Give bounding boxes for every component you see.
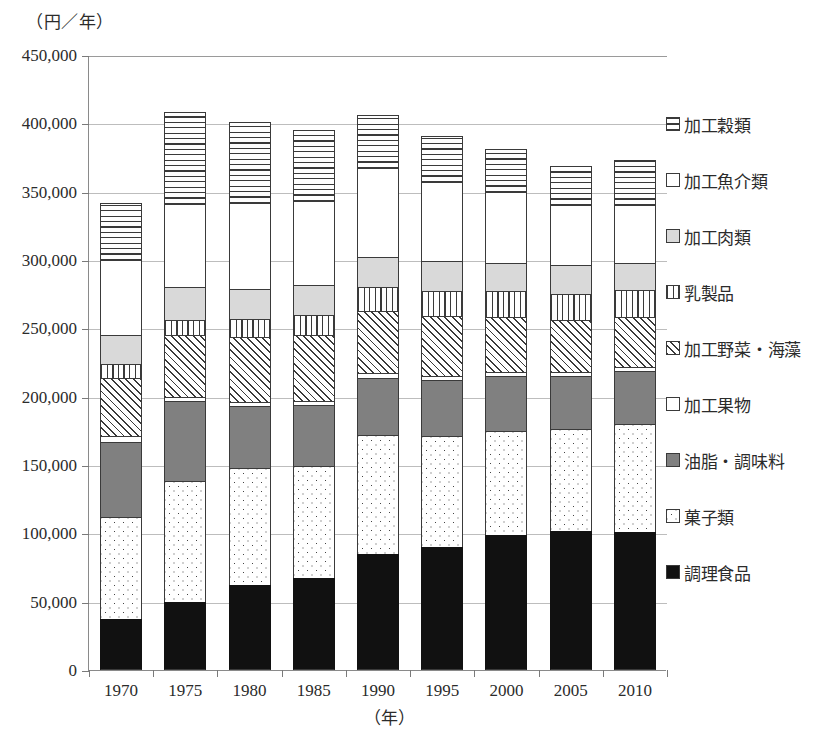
bar-1970[interactable] bbox=[100, 55, 142, 670]
bar-segment-1970-調理食品[interactable] bbox=[100, 619, 142, 670]
bar-segment-1980-加工穀類[interactable] bbox=[229, 122, 271, 203]
bar-segment-1985-加工野菜・海藻[interactable] bbox=[293, 335, 335, 401]
bar-2010[interactable] bbox=[614, 55, 656, 670]
bar-1995[interactable] bbox=[421, 55, 463, 670]
bar-segment-1970-菓子類[interactable] bbox=[100, 517, 142, 620]
bar-segment-2000-加工肉類[interactable] bbox=[485, 263, 527, 292]
bar-segment-1980-調理食品[interactable] bbox=[229, 585, 271, 670]
bar-segment-2000-加工穀類[interactable] bbox=[485, 149, 527, 191]
bar-segment-1975-油脂・調味料[interactable] bbox=[164, 401, 206, 482]
bar-segment-1975-加工穀類[interactable] bbox=[164, 112, 206, 204]
legend-item-chori_shokuhin[interactable]: 調理食品 bbox=[666, 544, 822, 600]
bar-segment-2000-加工果物[interactable] bbox=[485, 372, 527, 376]
bar-segment-1995-菓子類[interactable] bbox=[421, 436, 463, 547]
bar-segment-1990-乳製品[interactable] bbox=[357, 287, 399, 310]
bar-segment-1995-油脂・調味料[interactable] bbox=[421, 380, 463, 436]
bar-segment-1975-加工肉類[interactable] bbox=[164, 287, 206, 320]
bar-segment-2005-加工魚介類[interactable] bbox=[550, 205, 592, 265]
bar-segment-2010-加工肉類[interactable] bbox=[614, 263, 656, 290]
bar-segment-1970-加工穀類[interactable] bbox=[100, 203, 142, 260]
bar-segment-2000-油脂・調味料[interactable] bbox=[485, 376, 527, 431]
bar-segment-2010-乳製品[interactable] bbox=[614, 290, 656, 317]
bar-segment-1975-調理食品[interactable] bbox=[164, 602, 206, 670]
bar-2005[interactable] bbox=[550, 55, 592, 670]
bar-segment-1975-加工野菜・海藻[interactable] bbox=[164, 335, 206, 397]
x-axis-tick-label: 1970 bbox=[104, 681, 138, 701]
bar-segment-2010-加工野菜・海藻[interactable] bbox=[614, 317, 656, 366]
bar-1990[interactable] bbox=[357, 55, 399, 670]
bar-segment-2010-加工穀類[interactable] bbox=[614, 160, 656, 205]
bar-segment-2005-乳製品[interactable] bbox=[550, 294, 592, 320]
legend-item-kakou_gyokairui[interactable]: 加工魚介類 bbox=[666, 152, 822, 208]
bar-segment-2000-加工魚介類[interactable] bbox=[485, 192, 527, 263]
bar-segment-1995-乳製品[interactable] bbox=[421, 291, 463, 316]
bar-segment-2010-加工果物[interactable] bbox=[614, 367, 656, 371]
bar-segment-1975-菓子類[interactable] bbox=[164, 481, 206, 601]
bar-2000[interactable] bbox=[485, 55, 527, 670]
bar-segment-1990-加工野菜・海藻[interactable] bbox=[357, 311, 399, 374]
bar-segment-2010-加工魚介類[interactable] bbox=[614, 205, 656, 262]
bar-segment-1985-油脂・調味料[interactable] bbox=[293, 405, 335, 467]
bar-segment-2005-菓子類[interactable] bbox=[550, 429, 592, 530]
legend-item-kakou_yasai_kaisou[interactable]: 加工野菜・海藻 bbox=[666, 320, 822, 376]
bar-segment-1990-加工果物[interactable] bbox=[357, 373, 399, 377]
bar-1985[interactable] bbox=[293, 55, 335, 670]
bar-segment-1985-加工果物[interactable] bbox=[293, 401, 335, 405]
bar-segment-1990-菓子類[interactable] bbox=[357, 435, 399, 554]
bar-segment-1970-加工果物[interactable] bbox=[100, 436, 142, 441]
bar-segment-2000-加工野菜・海藻[interactable] bbox=[485, 317, 527, 372]
bar-segment-1970-加工魚介類[interactable] bbox=[100, 260, 142, 335]
bar-segment-2010-菓子類[interactable] bbox=[614, 424, 656, 532]
legend-item-kakou_nikurui[interactable]: 加工肉類 bbox=[666, 208, 822, 264]
bar-segment-1985-加工魚介類[interactable] bbox=[293, 201, 335, 284]
bar-segment-1985-調理食品[interactable] bbox=[293, 578, 335, 670]
bar-segment-2000-調理食品[interactable] bbox=[485, 535, 527, 670]
bar-segment-1980-菓子類[interactable] bbox=[229, 468, 271, 586]
legend-item-yushi_chomiryo[interactable]: 油脂・調味料 bbox=[666, 432, 822, 488]
bar-1975[interactable] bbox=[164, 55, 206, 670]
bar-segment-2010-油脂・調味料[interactable] bbox=[614, 371, 656, 424]
bar-segment-1985-乳製品[interactable] bbox=[293, 315, 335, 336]
legend-item-kashirui[interactable]: 菓子類 bbox=[666, 488, 822, 544]
bar-segment-1975-加工魚介類[interactable] bbox=[164, 204, 206, 287]
bar-segment-1990-加工肉類[interactable] bbox=[357, 257, 399, 287]
bar-segment-1980-加工魚介類[interactable] bbox=[229, 203, 271, 289]
bar-segment-2005-調理食品[interactable] bbox=[550, 531, 592, 670]
legend-item-kakou_kudamono[interactable]: 加工果物 bbox=[666, 376, 822, 432]
bar-segment-2005-加工肉類[interactable] bbox=[550, 265, 592, 294]
legend-item-nyuseihin[interactable]: 乳製品 bbox=[666, 264, 822, 320]
bar-segment-2000-菓子類[interactable] bbox=[485, 431, 527, 535]
bar-segment-1975-乳製品[interactable] bbox=[164, 320, 206, 335]
legend-item-kakou_kokurui[interactable]: 加工穀類 bbox=[666, 96, 822, 152]
bar-segment-1970-加工野菜・海藻[interactable] bbox=[100, 378, 142, 437]
bar-segment-1980-加工肉類[interactable] bbox=[229, 289, 271, 319]
bar-segment-2010-調理食品[interactable] bbox=[614, 532, 656, 670]
bar-segment-1990-調理食品[interactable] bbox=[357, 554, 399, 670]
bar-segment-1995-加工魚介類[interactable] bbox=[421, 182, 463, 261]
bar-segment-1970-加工肉類[interactable] bbox=[100, 335, 142, 364]
bar-segment-2005-加工果物[interactable] bbox=[550, 372, 592, 376]
bar-segment-1980-加工野菜・海藻[interactable] bbox=[229, 337, 271, 403]
bar-segment-1985-菓子類[interactable] bbox=[293, 466, 335, 578]
bar-segment-1970-乳製品[interactable] bbox=[100, 364, 142, 378]
bar-1980[interactable] bbox=[229, 55, 271, 670]
bar-segment-2005-油脂・調味料[interactable] bbox=[550, 376, 592, 429]
bar-segment-1985-加工穀類[interactable] bbox=[293, 130, 335, 201]
bar-segment-2000-乳製品[interactable] bbox=[485, 291, 527, 317]
bar-segment-2005-加工野菜・海藻[interactable] bbox=[550, 320, 592, 372]
bar-segment-1995-加工野菜・海藻[interactable] bbox=[421, 316, 463, 376]
bar-segment-1990-加工穀類[interactable] bbox=[357, 115, 399, 168]
bar-segment-1985-加工肉類[interactable] bbox=[293, 285, 335, 315]
bar-segment-1990-油脂・調味料[interactable] bbox=[357, 378, 399, 435]
bar-segment-1970-油脂・調味料[interactable] bbox=[100, 442, 142, 517]
bar-segment-1980-加工果物[interactable] bbox=[229, 402, 271, 406]
bar-segment-1980-油脂・調味料[interactable] bbox=[229, 406, 271, 468]
bar-segment-1995-加工穀類[interactable] bbox=[421, 136, 463, 182]
bar-segment-1980-乳製品[interactable] bbox=[229, 319, 271, 337]
bar-segment-1995-加工果物[interactable] bbox=[421, 376, 463, 380]
bar-segment-2005-加工穀類[interactable] bbox=[550, 166, 592, 206]
bar-segment-1995-加工肉類[interactable] bbox=[421, 261, 463, 291]
bar-segment-1995-調理食品[interactable] bbox=[421, 547, 463, 670]
bar-segment-1975-加工果物[interactable] bbox=[164, 397, 206, 401]
bar-segment-1990-加工魚介類[interactable] bbox=[357, 168, 399, 257]
